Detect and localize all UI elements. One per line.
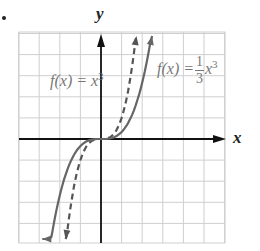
solid-curve-label: f(x) =13x3 bbox=[157, 55, 218, 86]
x-axis-label: x bbox=[233, 128, 242, 148]
cubic-function-graph bbox=[0, 0, 260, 251]
y-axis-label: y bbox=[96, 4, 104, 24]
dashed-curve-label: f(x) = x3 bbox=[50, 70, 104, 90]
fraction-one-third: 13 bbox=[195, 55, 204, 86]
